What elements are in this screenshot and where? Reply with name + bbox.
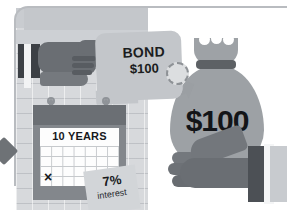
bottom-crop bbox=[0, 210, 287, 219]
illustration-canvas: $100 BOND $100 10 YEARS × 7% interest bbox=[0, 0, 287, 219]
card-top-rule bbox=[28, 6, 287, 8]
card-frame-border bbox=[14, 6, 286, 219]
